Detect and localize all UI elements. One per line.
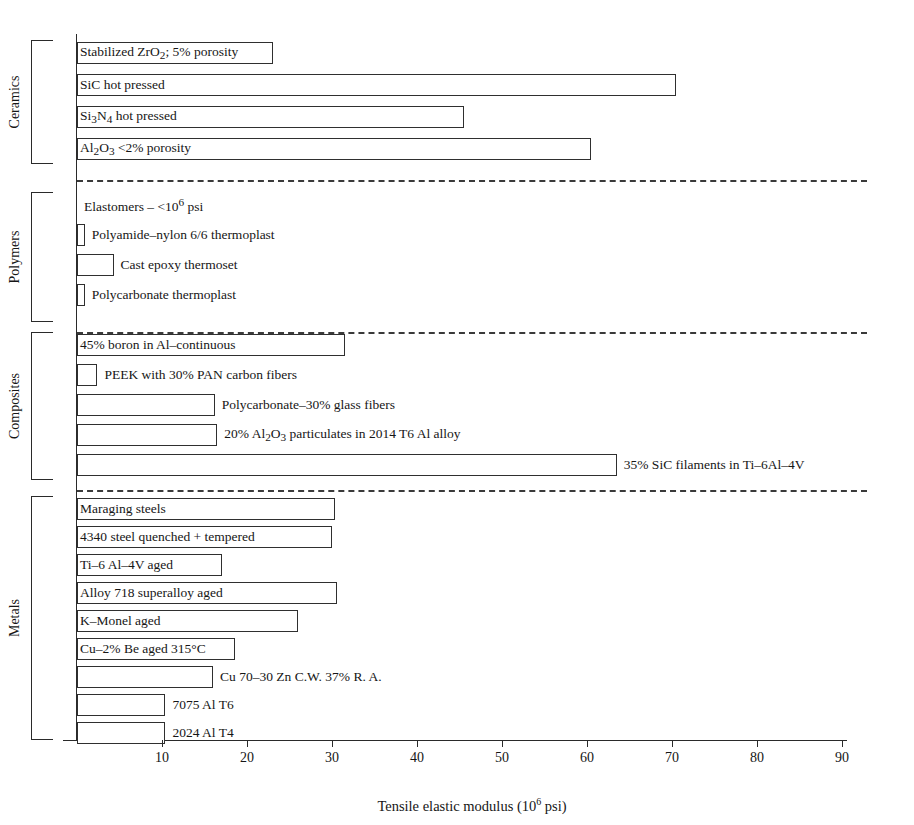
x-axis-title: Tensile elastic modulus (106 psi) bbox=[77, 796, 867, 815]
x-axis-tick bbox=[247, 740, 248, 747]
group-bracket bbox=[31, 332, 53, 480]
x-axis-tick-label: 30 bbox=[325, 750, 339, 766]
bar-label: Cu 70–30 Zn C.W. 37% R. A. bbox=[213, 670, 382, 684]
x-axis-tick bbox=[162, 740, 163, 747]
x-axis-tick-label: 40 bbox=[410, 750, 424, 766]
bar bbox=[77, 454, 617, 476]
x-axis-tick bbox=[332, 740, 333, 747]
bar bbox=[77, 284, 85, 306]
bar bbox=[77, 424, 217, 446]
group-separator bbox=[77, 180, 867, 182]
bar-label: Stabilized ZrO2; 5% porosity bbox=[77, 45, 238, 62]
bar bbox=[77, 364, 97, 386]
x-axis-tick-label: 50 bbox=[495, 750, 509, 766]
x-axis-tick-label: 70 bbox=[665, 750, 679, 766]
chart-container: Stabilized ZrO2; 5% porositySiC hot pres… bbox=[0, 0, 914, 825]
bar-label: Maraging steels bbox=[77, 502, 166, 516]
x-axis-tick bbox=[502, 740, 503, 747]
bar bbox=[77, 254, 114, 276]
x-axis-tick-label: 20 bbox=[240, 750, 254, 766]
x-axis-tick bbox=[672, 740, 673, 747]
bar-label: 2024 Al T4 bbox=[165, 726, 233, 740]
x-axis-tick-label: 60 bbox=[580, 750, 594, 766]
bar-label: Alloy 718 superalloy aged bbox=[77, 586, 223, 600]
bar-label: Polycarbonate–30% glass fibers bbox=[215, 398, 395, 412]
bar-label: PEEK with 30% PAN carbon fibers bbox=[97, 368, 297, 382]
bar bbox=[77, 224, 85, 246]
bar-label: Cast epoxy thermoset bbox=[114, 258, 238, 272]
group-separator bbox=[77, 332, 867, 334]
x-axis-tick bbox=[417, 740, 418, 747]
bar-label: 4340 steel quenched + tempered bbox=[77, 530, 255, 544]
x-axis-tick-label: 90 bbox=[835, 750, 849, 766]
x-axis-tick-label: 80 bbox=[750, 750, 764, 766]
bar bbox=[77, 722, 165, 744]
bar-label: Al2O3 <2% porosity bbox=[77, 141, 191, 158]
x-axis-tick bbox=[842, 740, 843, 747]
x-axis-tick-label: 10 bbox=[155, 750, 169, 766]
group-bracket bbox=[31, 192, 53, 322]
bar bbox=[77, 394, 215, 416]
bar-label: Ti–6 Al–4V aged bbox=[77, 558, 173, 572]
bar-label: 45% boron in Al–continuous bbox=[77, 338, 236, 352]
bar-label: Cu–2% Be aged 315°C bbox=[77, 642, 206, 656]
bar bbox=[77, 666, 213, 688]
bar-label: Polycarbonate thermoplast bbox=[85, 288, 236, 302]
bar-label: SiC hot pressed bbox=[77, 78, 165, 92]
bar bbox=[77, 74, 676, 96]
bar-label: 20% Al2O3 particulates in 2014 T6 Al all… bbox=[217, 427, 460, 444]
bar-label: 35% SiC filaments in Ti–6Al–4V bbox=[617, 458, 805, 472]
group-bracket bbox=[31, 496, 53, 740]
bar-label: Polyamide–nylon 6/6 thermoplast bbox=[85, 228, 275, 242]
bar-label: Si3N4 hot pressed bbox=[77, 109, 177, 126]
group-separator bbox=[77, 490, 867, 492]
x-axis-tick bbox=[757, 740, 758, 747]
bar-label: 7075 Al T6 bbox=[165, 698, 233, 712]
bar-label: K–Monel aged bbox=[77, 614, 161, 628]
bar bbox=[77, 694, 165, 716]
group-bracket bbox=[31, 40, 53, 164]
x-axis-tick bbox=[587, 740, 588, 747]
bar-label: Elastomers – <106 psi bbox=[77, 197, 203, 214]
plot-area: Stabilized ZrO2; 5% porositySiC hot pres… bbox=[77, 34, 867, 740]
